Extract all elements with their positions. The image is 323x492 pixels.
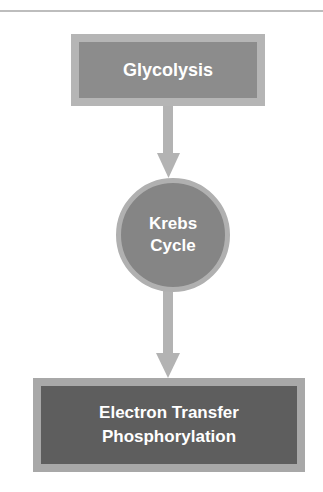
glycolysis-label: Glycolysis: [123, 60, 213, 81]
krebs-cycle-node: Krebs Cycle: [116, 178, 230, 292]
down-arrow-icon: [156, 290, 180, 378]
krebs-label-line-2: Cycle: [149, 235, 197, 257]
etp-label-line-2: Phosphorylation: [99, 425, 239, 449]
down-arrow-icon: [157, 104, 180, 178]
krebs-label-line-1: Krebs: [149, 213, 197, 235]
etp-label-line-1: Electron Transfer: [99, 401, 239, 425]
electron-transfer-phosphorylation-node: Electron Transfer Phosphorylation: [33, 378, 305, 472]
glycolysis-node: Glycolysis: [71, 34, 265, 106]
